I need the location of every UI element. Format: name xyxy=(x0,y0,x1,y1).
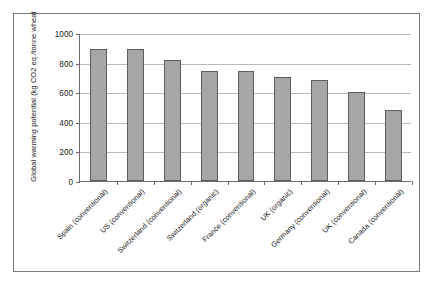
y-axis-title: Global warming potential (kg CO2 eq./ton… xyxy=(29,7,38,187)
y-tick-mark xyxy=(76,64,80,65)
gridline xyxy=(80,34,411,35)
y-tick-mark xyxy=(76,123,80,124)
y-tick-mark xyxy=(76,182,80,183)
y-tick-label: 400 xyxy=(59,118,73,127)
y-tick-label: 200 xyxy=(59,148,73,157)
x-tick-mark xyxy=(338,181,339,185)
bar xyxy=(164,60,181,181)
x-tick-mark xyxy=(412,181,413,185)
bar xyxy=(385,110,402,181)
bar xyxy=(201,71,218,181)
x-tick-mark xyxy=(191,181,192,185)
y-tick-label: 600 xyxy=(59,89,73,98)
bar xyxy=(127,49,144,181)
bar xyxy=(311,80,328,181)
y-tick-label: 800 xyxy=(59,59,73,68)
y-tick-mark xyxy=(76,152,80,153)
x-tick-mark xyxy=(154,181,155,185)
y-tick-mark xyxy=(76,93,80,94)
bar xyxy=(90,49,107,181)
bar xyxy=(348,92,365,181)
x-tick-mark xyxy=(228,181,229,185)
x-tick-mark xyxy=(375,181,376,185)
plot-area: 02004006008001000 Spain (conventional)US… xyxy=(79,34,411,182)
y-tick-label: 1000 xyxy=(55,30,73,39)
y-tick-label: 0 xyxy=(68,178,73,187)
x-tick-mark xyxy=(301,181,302,185)
x-tick-mark xyxy=(264,181,265,185)
bar xyxy=(238,71,255,181)
x-tick-mark xyxy=(117,181,118,185)
bar xyxy=(274,77,291,181)
chart-figure: Global warming potential (kg CO2 eq./ton… xyxy=(0,0,435,285)
y-tick-mark xyxy=(76,34,80,35)
